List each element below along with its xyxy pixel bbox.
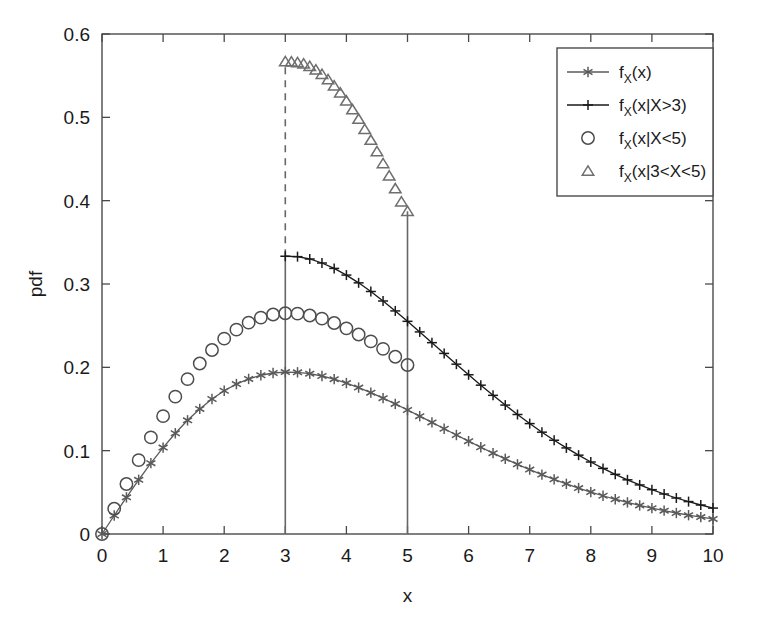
legend-label-rest: (x|X>3) (632, 96, 687, 115)
legend-label-subscript: X (624, 171, 632, 185)
legend: fX(x)fX(x|X>3)fX(x|X<5)fX(x|3<X<5) (557, 48, 713, 196)
y-tick-label: 0.4 (64, 191, 91, 212)
y-tick-label: 0.5 (64, 107, 90, 128)
x-tick-label: 7 (524, 545, 535, 566)
x-axis-title: x (403, 585, 413, 606)
x-tick-label: 9 (647, 545, 658, 566)
y-tick-label: 0.2 (64, 357, 90, 378)
chart-figure: 012345678910 00.10.20.30.40.50.6 xpdf fX… (0, 0, 757, 623)
x-tick-label: 2 (219, 545, 230, 566)
x-tick-label: 3 (280, 545, 291, 566)
x-tick-label: 4 (341, 545, 352, 566)
y-axis-title: pdf (25, 270, 46, 297)
y-tick-label: 0.6 (64, 24, 90, 45)
x-tick-label: 6 (463, 545, 474, 566)
x-tick-label: 5 (402, 545, 413, 566)
legend-label-subscript: X (624, 105, 632, 119)
y-tick-label: 0 (79, 524, 90, 545)
y-tick-label: 0.3 (64, 274, 90, 295)
x-tick-label: 1 (158, 545, 169, 566)
legend-label-rest: (x) (632, 63, 652, 82)
x-tick-label: 0 (97, 545, 108, 566)
legend-label-subscript: X (624, 72, 632, 86)
legend-label-subscript: X (624, 138, 632, 152)
legend-label-rest: (x|X<5) (632, 129, 687, 148)
pdf-plot: 012345678910 00.10.20.30.40.50.6 xpdf fX… (0, 0, 757, 623)
y-tick-label: 0.1 (64, 441, 90, 462)
x-tick-label: 10 (702, 545, 723, 566)
x-tick-label: 8 (586, 545, 597, 566)
legend-label-rest: (x|3<X<5) (632, 162, 706, 181)
